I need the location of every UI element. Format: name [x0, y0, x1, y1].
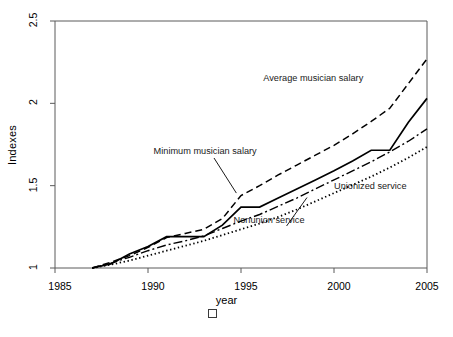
leader-line-minimum-musician-salary: [214, 158, 236, 193]
plot-frame: [55, 21, 427, 268]
chart-figure: Indexes 2.5 2 1.5 1 1985 1990 1995 2000 …: [0, 0, 453, 337]
series-line-minimum-musician-salary: [92, 98, 427, 268]
series-line-average-musician-salary: [92, 59, 427, 268]
plot-canvas: [0, 0, 453, 337]
